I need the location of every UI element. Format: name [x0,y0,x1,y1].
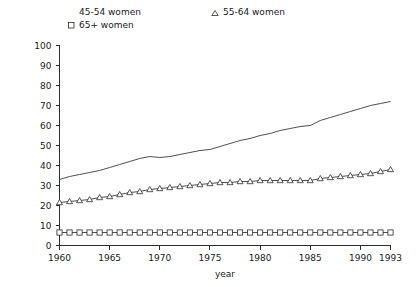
x-tick-group: 19601965197019751980198519901993 [48,246,402,263]
legend-label-65plus: 65+ women [79,20,134,30]
x-tick-label: 1960 [48,253,71,263]
data-point-square [87,230,92,235]
x-tick-label: 1970 [148,253,171,263]
data-point-square [227,230,232,235]
y-tick-label: 0 [46,241,52,251]
data-point-square [348,230,353,235]
data-point-square [328,230,333,235]
data-point-square [117,230,122,235]
data-point-square [137,230,142,235]
data-point-square [77,230,82,235]
series-line [60,102,391,180]
x-tick-label: 1990 [349,253,372,263]
data-point-square [177,230,182,235]
data-point-square [308,230,313,235]
data-point-square [288,230,293,235]
data-point-square [237,230,242,235]
x-tick-label: 1993 [379,253,402,263]
data-point-square [318,230,323,235]
y-tick-label: 10 [40,221,52,231]
series-2 [57,167,394,205]
y-tick-label: 50 [40,141,52,151]
data-point-square [197,230,202,235]
data-point-square [338,230,343,235]
data-point-square [97,230,102,235]
series-1 [60,102,391,180]
square-icon [69,23,75,29]
data-point-square [107,230,112,235]
x-tick-label: 1975 [199,253,222,263]
y-tick-label: 100 [34,41,51,51]
triangle-icon [212,11,218,16]
legend-entry-45-54: 45-54 women [79,7,141,17]
data-point-square [67,230,72,235]
data-point-square [127,230,132,235]
data-point-square [167,230,172,235]
data-point-square [268,230,273,235]
data-point-square [187,230,192,235]
y-axis: 0102030405060708090100 [34,41,59,251]
data-point-square [247,230,252,235]
legend-label-45-54: 45-54 women [79,7,141,17]
x-tick-label: 1980 [249,253,272,263]
x-axis-title: year [215,269,235,279]
x-axis: 19601965197019751980198519901993 year [48,246,402,280]
y-tick-label: 90 [40,61,52,71]
data-point-square [157,230,162,235]
chart-container: 45-54 women 55-64 women 65+ women 010203… [0,0,420,287]
legend-entry-55-64: 55-64 women [212,7,285,17]
y-tick-label: 60 [40,121,52,131]
data-point-square [258,230,263,235]
data-point-square [57,230,62,235]
data-point-triangle [388,167,394,172]
series-3 [57,230,393,235]
data-point-square [278,230,283,235]
legend-label-55-64: 55-64 women [223,7,285,17]
line-chart: 45-54 women 55-64 women 65+ women 010203… [0,0,420,287]
data-point-square [388,230,393,235]
y-tick-label: 70 [40,101,52,111]
legend-entry-65plus: 65+ women [69,20,134,30]
x-tick-label: 1965 [98,253,121,263]
data-point-square [217,230,222,235]
y-tick-label: 40 [40,161,52,171]
data-point-square [368,230,373,235]
plot-area [57,102,394,236]
data-point-square [298,230,303,235]
data-point-square [378,230,383,235]
y-tick-label: 30 [40,181,52,191]
data-point-square [207,230,212,235]
data-point-square [358,230,363,235]
y-tick-label: 20 [40,201,52,211]
y-tick-label: 80 [40,81,52,91]
x-tick-label: 1985 [299,253,322,263]
legend: 45-54 women 55-64 women 65+ women [69,7,285,30]
data-point-square [147,230,152,235]
y-tick-group: 0102030405060708090100 [34,41,59,251]
